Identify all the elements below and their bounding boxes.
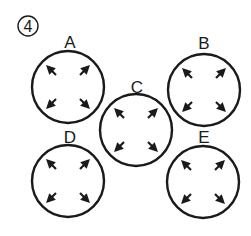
step-number-badge: 4 — [18, 16, 38, 36]
diagram-canvas: 4 A B C D — [0, 0, 251, 236]
circle-b: B — [168, 34, 240, 126]
circle-c: C — [100, 78, 172, 166]
circle-label-b: B — [198, 34, 209, 53]
outward-arrows-icon — [48, 67, 88, 107]
outward-arrows-icon — [48, 161, 88, 201]
circle-label-e: E — [198, 128, 209, 147]
circle-e: E — [167, 128, 239, 218]
outward-arrows-icon — [184, 70, 224, 110]
circle-c-ring — [100, 94, 172, 166]
circle-d-ring — [32, 145, 104, 217]
circle-d: D — [32, 128, 104, 217]
circle-e-ring — [167, 146, 239, 218]
circle-a-ring — [32, 51, 104, 123]
outward-arrows-icon — [183, 162, 223, 202]
circle-a: A — [32, 33, 104, 123]
circle-b-ring — [168, 54, 240, 126]
outward-arrows-icon — [116, 110, 156, 150]
circle-label-a: A — [64, 33, 76, 52]
badge-number: 4 — [24, 18, 33, 35]
